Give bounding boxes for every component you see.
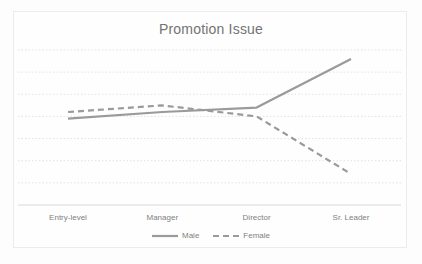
legend-dashed-line-swatch <box>213 233 239 239</box>
legend-solid-line-swatch <box>152 233 178 239</box>
chart-legend: MaleFemale <box>0 231 422 240</box>
legend-item-female: Female <box>213 231 270 240</box>
plot-area <box>0 0 422 264</box>
legend-label-female: Female <box>243 231 270 240</box>
legend-label-male: Male <box>182 231 199 240</box>
promotion-issue-chart: Promotion Issue Entry-levelManagerDirect… <box>0 0 422 264</box>
legend-item-male: Male <box>152 231 199 240</box>
